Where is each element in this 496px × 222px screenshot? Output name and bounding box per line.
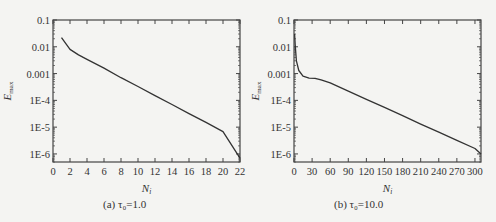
- data-series-line: [62, 38, 241, 159]
- caption-b: (b) τ₀=10.0: [334, 198, 383, 210]
- chart-b-plot: 0.10.010.0011E-41E-51E-60306090120150180…: [248, 0, 496, 222]
- data-series-line: [295, 34, 481, 154]
- x-tick-label: 12: [150, 166, 161, 177]
- y-tick-label: 1E-6: [30, 149, 50, 160]
- y-tick-label: 0.1: [278, 15, 291, 26]
- x-tick-label: 2: [67, 166, 72, 177]
- y-tick-label: 0.01: [32, 42, 50, 53]
- x-tick-label: 22: [235, 166, 246, 177]
- x-tick-label: 30: [307, 166, 318, 177]
- x-tick-label: 210: [413, 166, 429, 177]
- x-tick-label: 240: [431, 166, 447, 177]
- y-tick-label: 0.01: [273, 42, 291, 53]
- y-axis-label: Emax: [249, 81, 263, 101]
- x-tick-label: 10: [133, 166, 144, 177]
- x-tick-label: 0: [291, 166, 296, 177]
- y-tick-label: 0.001: [267, 69, 291, 80]
- chart-a-plot: 0.10.010.0011E-41E-51E-60246810121416182…: [0, 0, 248, 222]
- y-tick-label: 1E-4: [30, 95, 51, 106]
- x-tick-label: 8: [118, 166, 123, 177]
- x-axis-label: Ni: [141, 182, 151, 196]
- caption-a: (a) τ₀=1.0: [103, 198, 146, 210]
- y-tick-label: 1E-5: [30, 122, 50, 133]
- y-tick-label: 0.1: [37, 15, 50, 26]
- x-tick-label: 90: [343, 166, 354, 177]
- y-tick-label: 1E-5: [271, 122, 291, 133]
- y-axis-label: Emax: [1, 81, 15, 101]
- x-tick-label: 0: [50, 166, 55, 177]
- x-tick-label: 180: [395, 166, 411, 177]
- x-axis-label: Ni: [382, 182, 392, 196]
- x-tick-label: 20: [218, 166, 229, 177]
- x-tick-label: 14: [167, 166, 178, 177]
- x-tick-label: 300: [467, 166, 483, 177]
- y-tick-label: 1E-4: [271, 95, 292, 106]
- x-tick-label: 60: [325, 166, 336, 177]
- x-tick-label: 4: [84, 166, 90, 177]
- chart-panel-a: 0.10.010.0011E-41E-51E-60246810121416182…: [0, 0, 248, 222]
- x-tick-label: 16: [184, 166, 195, 177]
- x-tick-label: 6: [101, 166, 106, 177]
- x-tick-label: 270: [449, 166, 465, 177]
- x-tick-label: 18: [201, 166, 212, 177]
- x-tick-label: 150: [377, 166, 393, 177]
- y-tick-label: 1E-6: [271, 149, 291, 160]
- x-tick-label: 120: [359, 166, 375, 177]
- chart-panel-b: 0.10.010.0011E-41E-51E-60306090120150180…: [248, 0, 496, 222]
- y-tick-label: 0.001: [26, 69, 50, 80]
- plot-frame: [294, 20, 481, 162]
